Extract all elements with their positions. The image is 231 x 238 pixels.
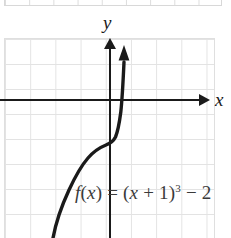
equation-plus: + (138, 182, 159, 203)
figure-canvas: y x f(x) = (x + 1)3 − 2 (0, 0, 231, 238)
equation-argument: x (87, 182, 96, 203)
equation-outer-constant: 2 (202, 182, 212, 203)
equation-equals: = (102, 182, 123, 203)
equation-inner-constant: 1 (159, 182, 169, 203)
equation-base-variable: x (130, 182, 139, 203)
equation-minus: − (181, 182, 202, 203)
function-equation-label: f(x) = (x + 1)3 − 2 (75, 183, 211, 202)
curve-arrowhead-icon (119, 45, 130, 61)
curve-path (53, 62, 124, 238)
